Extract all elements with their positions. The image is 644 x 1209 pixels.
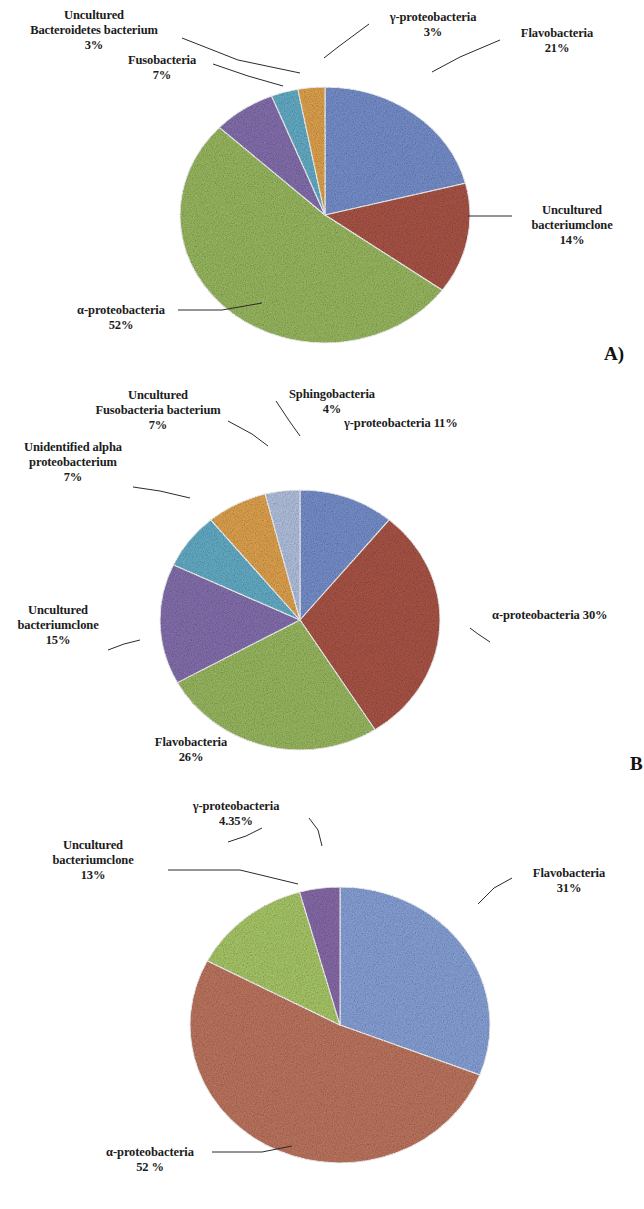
label-flavobacteria: Flavobacteria 21% (502, 26, 612, 56)
label-uncultured-bacteriumclone: Uncultured bacteriumclone 14% (514, 203, 630, 247)
label-gamma-proteobacteria: γ-proteobacteria 11% (344, 416, 458, 431)
panel-letter-b: B (630, 753, 643, 775)
pie-chart-panel-b: Uncultured Fusobacteria bacterium 7% Uni… (0, 378, 644, 790)
label-alpha-proteobacteria: α-proteobacteria 52 % (88, 1145, 212, 1175)
label-fusobacteria: Fusobacteria 7% (110, 53, 214, 83)
label-flavobacteria: Flavobacteria 26% (142, 735, 240, 765)
label-flavobacteria: Flavobacteria 31% (514, 866, 624, 896)
label-alpha-proteobacteria: α-proteobacteria 30% (492, 608, 607, 623)
label-uncultured-bacteroidetes-bacterium: Uncultured Bacteroidetes bacterium 3% (4, 8, 184, 52)
label-uncultured-fusobacteria-bacterium: Uncultured Fusobacteria bacterium 7% (78, 388, 238, 432)
label-sphingobacteria: Sphingobacteria 4% (274, 387, 390, 417)
panel-letter-a: A) (604, 343, 624, 365)
label-alpha-proteobacteria: α-proteobacteria 52% (62, 303, 180, 333)
label-unidentified-alpha-proteobacterium: Unidentified alpha proteobacterium 7% (8, 440, 138, 484)
label-uncultured-bacteriumclone: Uncultured bacteriumclone 15% (8, 603, 108, 647)
pie-chart-panel-a: Uncultured Bacteroidetes bacterium 3% Fu… (0, 0, 644, 378)
label-gamma-proteobacteria: γ-proteobacteria 4.35% (162, 799, 310, 829)
label-gamma-proteobacteria: γ-proteobacteria 3% (372, 10, 494, 40)
pie-chart-panel-c: γ-proteobacteria 4.35% Uncultured bacter… (0, 790, 644, 1209)
label-uncultured-bacteriumclone: Uncultured bacteriumclone 13% (18, 838, 168, 882)
